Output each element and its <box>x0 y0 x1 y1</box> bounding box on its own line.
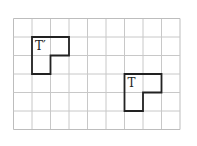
grid-diagram: T′ T <box>13 18 181 136</box>
grid-svg: T′ T <box>13 18 181 132</box>
label-t-prime: T′ <box>35 39 46 53</box>
label-t: T <box>128 76 136 90</box>
